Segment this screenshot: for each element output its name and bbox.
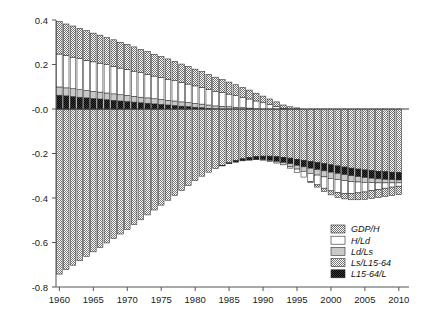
bar-segment-ld-ls	[125, 95, 131, 101]
bar-segment-ls-l15-64	[321, 109, 327, 164]
legend-swatch-gdp-h	[331, 225, 345, 233]
bar-segment-ld-ls	[389, 180, 395, 183]
x-tick-label: 1985	[219, 294, 240, 305]
bar-segment-gdp-h	[355, 193, 361, 200]
bar-group	[376, 109, 382, 198]
bar-segment-ld-ls	[335, 173, 341, 179]
bar-segment-h-ld	[301, 171, 307, 177]
bar-segment-ls-l15-64	[77, 109, 83, 261]
bar-segment-gdp-h	[158, 56, 164, 77]
bar-group	[362, 109, 368, 199]
bar-group	[77, 28, 83, 260]
bar-group	[260, 96, 266, 160]
bar-segment-l15-64-l	[63, 96, 69, 109]
bar-segment-h-ld	[63, 56, 69, 88]
bar-segment-ls-l15-64	[362, 109, 368, 170]
bar-segment-gdp-h	[91, 33, 97, 62]
bar-segment-ls-l15-64	[104, 109, 110, 243]
x-tick-label: 1960	[49, 294, 70, 305]
bar-segment-h-ld	[247, 99, 253, 108]
x-tick-label: 1995	[286, 294, 307, 305]
bar-segment-ld-ls	[369, 178, 375, 182]
bar-segment-ls-l15-64	[260, 109, 266, 156]
bar-segment-h-ld	[220, 93, 226, 107]
x-tick-label: 1970	[117, 294, 138, 305]
bar-segment-h-ld	[131, 71, 137, 96]
bar-segment-gdp-h	[220, 80, 226, 93]
bar-segment-ld-ls	[118, 95, 124, 101]
bar-segment-ld-ls	[145, 98, 151, 103]
bar-segment-h-ld	[294, 169, 300, 173]
bar-segment-ld-ls	[91, 91, 97, 98]
bar-segment-l15-64-l	[131, 102, 137, 109]
bar-segment-l15-64-l	[158, 104, 164, 109]
bar-segment-gdp-h	[77, 28, 83, 58]
bar-group	[131, 47, 137, 225]
bar-segment-ls-l15-64	[84, 109, 90, 256]
bar-segment-ld-ls	[362, 178, 368, 183]
bar-segment-h-ld	[138, 73, 144, 97]
bar-segment-h-ld	[253, 101, 259, 109]
bar-segment-ls-l15-64	[213, 109, 219, 169]
bar-segment-ld-ls	[349, 176, 355, 182]
bar-segment-l15-64-l	[240, 159, 246, 161]
bar-segment-h-ld	[382, 183, 388, 188]
bar-segment-ld-ls	[138, 97, 144, 103]
bar-segment-gdp-h	[84, 31, 90, 61]
x-tick-label: 1990	[252, 294, 273, 305]
bar-segment-h-ld	[206, 89, 212, 105]
bar-segment-gdp-h	[233, 85, 239, 96]
bar-segment-ld-ls	[179, 102, 185, 106]
y-tick-label: -0.4	[32, 193, 48, 204]
bar-segment-ls-l15-64	[125, 109, 131, 230]
legend-swatch-l15-64-l	[331, 270, 345, 278]
bar-segment-gdp-h	[192, 69, 198, 86]
bar-segment-gdp-h	[152, 54, 158, 76]
bar-segment-ls-l15-64	[315, 109, 321, 163]
bar-segment-h-ld	[396, 183, 402, 186]
bar-segment-gdp-h	[179, 64, 185, 82]
bar-segment-h-ld	[179, 83, 185, 102]
bar-segment-l15-64-l	[97, 99, 103, 109]
bar-segment-ls-l15-64	[192, 109, 198, 181]
bar-group	[240, 87, 246, 160]
bar-segment-ls-l15-64	[226, 109, 232, 163]
bar-group	[389, 109, 395, 196]
legend-label-l15-64-l: L15-64/L	[351, 269, 387, 279]
bar-group	[247, 90, 253, 160]
bar-segment-h-ld	[77, 59, 83, 90]
bar-segment-h-ld	[321, 177, 327, 188]
bar-segment-ld-ls	[382, 179, 388, 183]
bar-segment-gdp-h	[63, 24, 69, 56]
bar-segment-ld-ls	[206, 105, 212, 108]
bar-segment-ls-l15-64	[206, 109, 212, 172]
bar-segment-l15-64-l	[267, 156, 273, 160]
bar-segment-h-ld	[349, 182, 355, 194]
bar-segment-gdp-h	[213, 77, 219, 91]
bar-segment-ld-ls	[158, 99, 164, 104]
bar-segment-l15-64-l	[355, 169, 361, 177]
bar-segment-ls-l15-64	[355, 109, 361, 169]
bar-segment-gdp-h	[172, 61, 178, 80]
bar-segment-ld-ls	[287, 164, 293, 167]
bar-segment-ls-l15-64	[138, 109, 144, 220]
bar-segment-h-ld	[57, 54, 63, 87]
bar-segment-ls-l15-64	[253, 109, 259, 157]
bar-segment-ls-l15-64	[308, 109, 314, 162]
bar-segment-ls-l15-64	[267, 109, 273, 156]
bar-segment-gdp-h	[335, 192, 341, 197]
bar-group	[335, 109, 341, 197]
y-tick-label: 0.2	[35, 59, 48, 70]
legend-swatch-h-ld	[331, 236, 345, 244]
bar-segment-l15-64-l	[104, 100, 110, 109]
bar-group	[355, 109, 361, 200]
bar-segment-gdp-h	[260, 96, 266, 103]
bar-segment-gdp-h	[131, 47, 137, 71]
bar-segment-h-ld	[118, 68, 124, 95]
bar-segment-ls-l15-64	[294, 109, 300, 159]
bar-group	[206, 74, 212, 172]
bar-segment-ld-ls	[396, 180, 402, 183]
bar-group	[382, 109, 388, 196]
bar-group	[152, 54, 158, 210]
bar-segment-h-ld	[342, 181, 348, 194]
